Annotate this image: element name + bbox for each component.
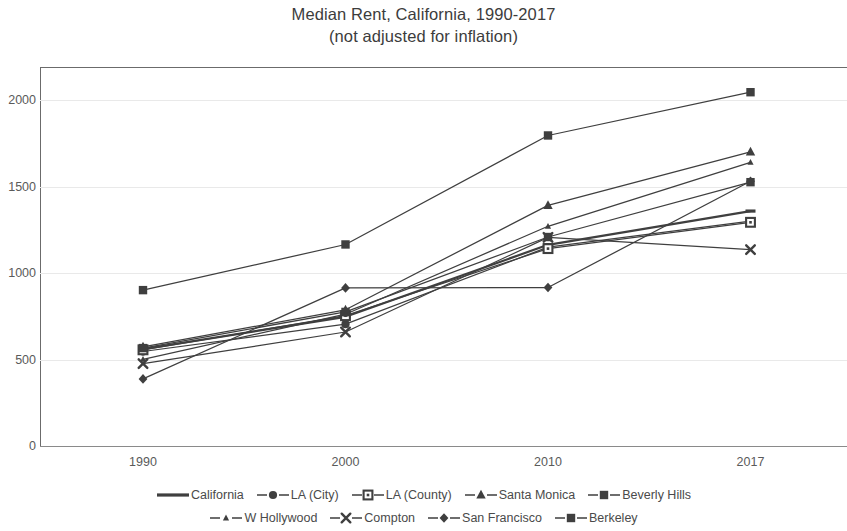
legend-label: California	[191, 488, 244, 502]
legend-label: San Francisco	[462, 511, 542, 525]
y-tick-label-2000: 2000	[2, 93, 36, 107]
legend-label: Beverly Hills	[622, 488, 691, 502]
legend-glyph	[269, 490, 277, 498]
legend-marker-square-icon	[587, 488, 621, 502]
chart-title-block: Median Rent, California, 1990-2017 (not …	[0, 4, 847, 48]
legend-item-california[interactable]: California	[156, 488, 244, 502]
legend-marker-line-icon	[156, 488, 190, 502]
chart-title: Median Rent, California, 1990-2017	[0, 4, 847, 26]
plot-area	[40, 67, 847, 446]
gridline-2000	[40, 100, 847, 101]
legend-item-la-city[interactable]: LA (City)	[256, 488, 339, 502]
legend-item-berkeley[interactable]: Berkeley	[554, 511, 638, 525]
chart-container: Median Rent, California, 1990-2017 (not …	[0, 0, 847, 531]
legend-marker-diamond-icon	[427, 511, 461, 525]
legend-label: LA (City)	[291, 488, 339, 502]
legend-marker-circle-icon	[256, 488, 290, 502]
legend-glyph	[476, 489, 485, 498]
legend-glyph	[342, 513, 351, 522]
chart-legend: CaliforniaLA (City)LA (County)Santa Moni…	[0, 483, 847, 529]
gridline-1000	[40, 273, 847, 274]
legend-marker-square-icon	[554, 511, 588, 525]
legend-marker-diamond-icon	[427, 511, 461, 525]
legend-item-w-hollywood[interactable]: W Hollywood	[209, 511, 317, 525]
legend-marker-open-square-icon	[351, 488, 385, 502]
gridline-1500	[40, 187, 847, 188]
legend-item-beverly-hills[interactable]: Beverly Hills	[587, 488, 691, 502]
chart-subtitle: (not adjusted for inflation)	[0, 26, 847, 48]
legend-row-bottom: W HollywoodComptonSan FranciscoBerkeley	[0, 506, 847, 529]
x-tick-label-2000: 2000	[332, 455, 360, 469]
legend-glyph	[363, 490, 372, 499]
legend-item-compton[interactable]: Compton	[329, 511, 415, 525]
x-tick-label-2010: 2010	[534, 455, 562, 469]
y-axis-tick-labels: 0500100015002000	[0, 0, 36, 531]
legend-label: Santa Monica	[499, 488, 575, 502]
legend-marker-x-icon	[329, 511, 363, 525]
legend-marker-triangle-icon	[464, 488, 498, 502]
legend-glyph	[600, 490, 608, 498]
legend-glyph	[223, 514, 229, 520]
legend-marker-square-icon	[554, 511, 588, 525]
legend-label: Berkeley	[589, 511, 638, 525]
legend-glyph	[440, 513, 449, 523]
legend-label: W Hollywood	[244, 511, 317, 525]
legend-marker-square-icon	[587, 488, 621, 502]
y-tick-label-0: 0	[2, 439, 36, 453]
y-tick-label-1000: 1000	[2, 266, 36, 280]
legend-marker-triangle-icon	[464, 488, 498, 502]
legend-item-santa-monica[interactable]: Santa Monica	[464, 488, 575, 502]
legend-marker-open-square-icon	[351, 488, 385, 502]
legend-marker-line-icon	[156, 488, 190, 502]
legend-row-top: CaliforniaLA (City)LA (County)Santa Moni…	[0, 483, 847, 506]
legend-item-san-francisco[interactable]: San Francisco	[427, 511, 542, 525]
legend-glyph	[567, 513, 575, 521]
legend-marker-x-icon	[329, 511, 363, 525]
x-tick-label-2017: 2017	[737, 455, 765, 469]
y-tick-label-500: 500	[2, 353, 36, 367]
legend-marker-small-dot-icon	[209, 511, 243, 525]
legend-label: Compton	[364, 511, 415, 525]
gridline-500	[40, 360, 847, 361]
legend-marker-small-dot-icon	[209, 511, 243, 525]
x-axis-line	[40, 446, 847, 447]
y-tick-label-1500: 1500	[2, 180, 36, 194]
legend-item-la-county[interactable]: LA (County)	[351, 488, 452, 502]
legend-marker-circle-icon	[256, 488, 290, 502]
legend-label: LA (County)	[386, 488, 452, 502]
x-tick-label-1990: 1990	[129, 455, 157, 469]
